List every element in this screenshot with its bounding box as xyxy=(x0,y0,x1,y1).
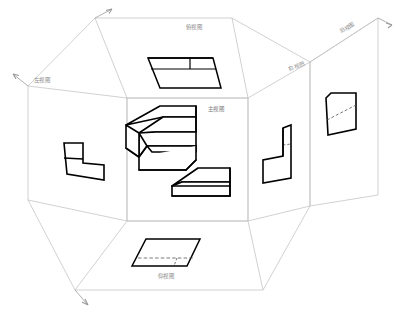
fold-seam-top-left xyxy=(28,18,95,86)
view-bottom-geometry xyxy=(132,239,200,266)
view-left-geometry xyxy=(64,143,104,180)
fold-seam-top-right xyxy=(232,18,310,62)
fold-arrow-top xyxy=(95,9,112,18)
fold-arrow-left xyxy=(13,74,28,86)
label-front-view: 主视图 xyxy=(208,107,224,112)
view-right-geometry xyxy=(263,125,291,183)
label-bottom-view: 仰视图 xyxy=(158,274,174,279)
drawing-canvas: 俯视图 左视图 主视图 右视图 后视图 仰视图 xyxy=(0,0,396,315)
fold-seam-bottom-left xyxy=(28,200,75,290)
projection-diagram xyxy=(0,0,396,315)
fold-arrow-bottom xyxy=(75,290,88,305)
plane-right xyxy=(248,62,310,221)
view-rear-geometry xyxy=(326,93,356,135)
fold-arrow-right xyxy=(378,18,392,28)
view-top-geometry xyxy=(148,58,221,88)
label-left-view: 左视图 xyxy=(34,78,50,83)
fold-seam-bottom-right xyxy=(263,206,310,290)
view-front-isometric-solid xyxy=(126,106,230,196)
label-top-view: 俯视图 xyxy=(186,25,202,30)
